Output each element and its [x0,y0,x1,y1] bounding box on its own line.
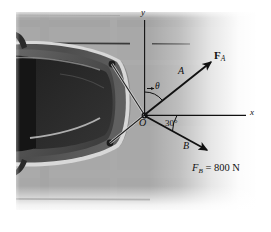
force-fa-subscript: A [221,54,226,63]
force-fb-caption: FB = 800 N [192,163,240,175]
force-fb-value: = 800 N [203,162,240,173]
force-fa-symbol: F [214,49,221,61]
theta-label: θ [155,82,160,92]
force-fa-label: FA [214,50,225,62]
beta-angle-label: 30° [165,119,178,128]
origin-label: O [139,118,146,128]
x-axis-label: x [250,108,254,117]
theta-arc [145,92,163,101]
point-b-label: B [183,141,189,151]
point-a-label: A [178,66,184,76]
figure-container: y x O θ 30° A B FA FB = 800 N [0,0,271,232]
y-axis-label: y [141,8,145,17]
diagram-overlay [0,0,271,232]
